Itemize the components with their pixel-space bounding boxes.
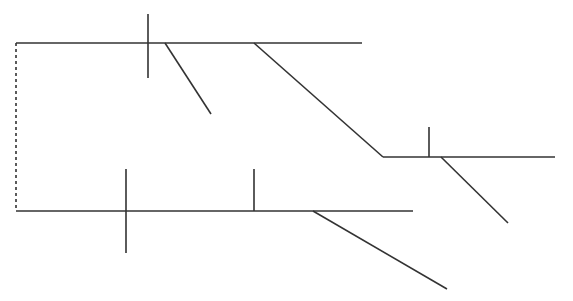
track-diagram — [0, 0, 573, 301]
top-short-branch — [165, 43, 211, 114]
track-segments — [16, 14, 555, 289]
middle-branch — [441, 157, 508, 223]
top-to-middle-connector — [254, 43, 383, 157]
bottom-branch — [313, 211, 447, 289]
